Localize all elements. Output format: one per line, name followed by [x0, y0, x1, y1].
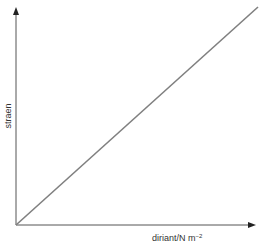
y-axis-label: straen	[3, 96, 13, 136]
y-axis-arrow-icon	[13, 7, 19, 15]
data-line	[16, 7, 258, 225]
x-axis-arrow-icon	[248, 222, 256, 228]
x-axis-label-base: diriant/N m	[152, 233, 196, 243]
x-axis-label: diriant/N m−2	[152, 231, 202, 243]
x-axis-label-exponent: −2	[196, 233, 203, 239]
chart-canvas	[0, 0, 269, 247]
